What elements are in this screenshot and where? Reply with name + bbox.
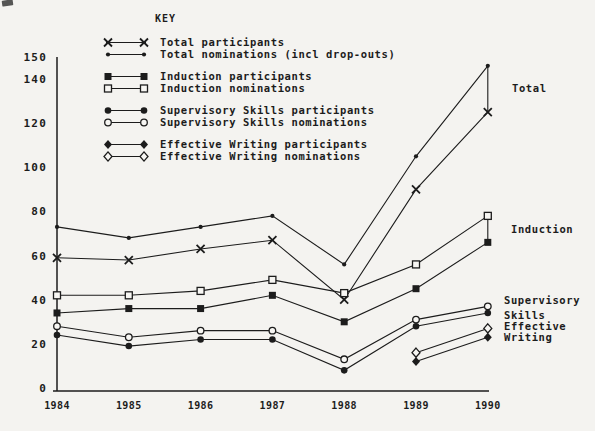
diamond-filled-marker-icon (412, 357, 420, 366)
dot-marker-icon (270, 214, 274, 218)
y-tick-label: 40 (31, 294, 47, 307)
circle-filled-marker-icon (126, 343, 133, 350)
circle-filled-marker-icon (197, 336, 204, 343)
diamond-open-marker-icon (484, 324, 492, 333)
dot-marker-icon (127, 236, 131, 240)
square-open-marker-icon (269, 276, 276, 283)
square-open-marker-icon (197, 287, 204, 294)
annotation-effective-writing: EffectiveWriting (504, 320, 566, 343)
y-tick-label: 120 (24, 117, 47, 130)
square-filled-marker-icon (125, 305, 132, 312)
dot-marker-icon (55, 225, 59, 229)
series-markers-total-participants (53, 108, 492, 304)
x-tick-label: 1987 (260, 400, 286, 411)
circle-open-marker-icon (269, 327, 276, 334)
annotation-total: Total (512, 82, 547, 94)
x-tick-label: 1989 (403, 400, 429, 411)
x-tick-label: 1990 (475, 400, 501, 411)
dot-marker-icon (486, 64, 490, 68)
annotation-line: Writing (504, 331, 552, 343)
y-tick-label: 60 (31, 250, 47, 263)
y-tick-label: 100 (24, 161, 47, 174)
square-open-marker-icon (413, 261, 420, 268)
annotation-induction: Induction (511, 223, 573, 235)
circle-open-marker-icon (197, 327, 204, 334)
x-tick-label: 1985 (116, 400, 142, 411)
y-tick-label: 0 (39, 382, 47, 395)
square-open-marker-icon (54, 292, 61, 299)
square-open-marker-icon (125, 292, 132, 299)
annotation-line: Total (512, 82, 547, 94)
circle-open-marker-icon (485, 303, 492, 310)
chart-page: KEY Total participantsTotal nominations … (0, 0, 595, 431)
square-filled-marker-icon (197, 305, 204, 312)
square-filled-marker-icon (484, 239, 491, 246)
circle-open-marker-icon (54, 323, 61, 330)
square-open-marker-icon (341, 290, 348, 297)
y-tick-label: 80 (31, 205, 47, 218)
line-chart: 0204060801001201401501984198519861987198… (0, 0, 595, 431)
x-tick-label: 1986 (188, 400, 214, 411)
square-filled-marker-icon (413, 285, 420, 292)
series-markers-supervisory-skills-participants (54, 310, 491, 374)
circle-filled-marker-icon (485, 310, 492, 317)
circle-filled-marker-icon (341, 367, 348, 374)
dot-marker-icon (414, 154, 418, 158)
square-filled-marker-icon (269, 292, 276, 299)
annotation-supervisory-skills: SupervisorySkills (504, 294, 580, 321)
circle-open-marker-icon (126, 334, 133, 341)
square-filled-marker-icon (341, 318, 348, 325)
circle-open-marker-icon (341, 356, 348, 363)
diamond-filled-marker-icon (484, 333, 492, 342)
square-filled-marker-icon (54, 309, 61, 316)
circle-open-marker-icon (413, 316, 420, 323)
y-tick-label: 20 (31, 338, 47, 351)
x-cross-marker-icon (412, 185, 420, 193)
circle-filled-marker-icon (269, 336, 276, 343)
x-tick-label: 1984 (44, 400, 70, 411)
circle-filled-marker-icon (54, 332, 61, 339)
y-tick-label: 140 (24, 73, 47, 86)
annotation-line: Supervisory (504, 294, 580, 306)
y-tick-label: 150 (24, 51, 47, 64)
annotation-line: Induction (511, 223, 573, 235)
series-markers-induction-nominations (54, 212, 492, 298)
circle-filled-marker-icon (413, 323, 420, 330)
series-line-total-nominations-incl-drop-outs (57, 66, 488, 265)
diamond-open-marker-icon (412, 348, 420, 357)
series-line-total-participants (57, 112, 488, 300)
square-open-marker-icon (484, 212, 491, 219)
dot-marker-icon (199, 225, 203, 229)
dot-marker-icon (342, 262, 346, 266)
series-markers-supervisory-skills-nominations (54, 303, 491, 363)
x-tick-label: 1988 (331, 400, 357, 411)
